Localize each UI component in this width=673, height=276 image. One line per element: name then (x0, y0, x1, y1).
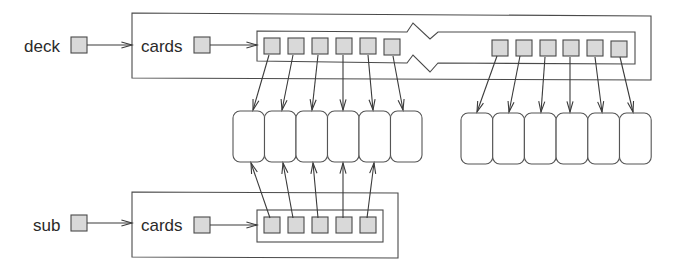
array-element-cell (492, 40, 508, 56)
variables-layer: decksub (24, 37, 132, 235)
field-pointer-cell (194, 217, 210, 233)
card-object (296, 111, 328, 162)
array-element-cell (264, 38, 280, 54)
array-element-cell (587, 40, 603, 56)
array-element-cell (288, 217, 304, 233)
array-element-cell (264, 217, 280, 233)
array-element-cell (540, 40, 556, 56)
field-pointer-cell (194, 37, 210, 53)
variable-sub: sub (33, 215, 132, 235)
card-object (588, 113, 620, 164)
reference-arrow (253, 55, 269, 110)
array-element-cell (336, 38, 352, 54)
card-object (556, 113, 588, 164)
card-object (524, 113, 556, 164)
array-element-cell (312, 38, 328, 54)
card-object (328, 111, 360, 162)
array-element-cell (336, 217, 352, 233)
card-object (391, 111, 423, 162)
field-label-cards: cards (141, 216, 183, 235)
array-element-cell (360, 38, 376, 54)
card-object (493, 113, 525, 164)
variable-pointer-cell (71, 215, 87, 231)
array-element-cell (516, 40, 532, 56)
reference-arrow (509, 56, 520, 112)
cards-right (461, 113, 651, 164)
array-element-cell (312, 217, 328, 233)
cards-left (233, 111, 422, 162)
reference-arrow (620, 57, 633, 112)
array-element-cell (563, 40, 579, 56)
deck-object: cards (132, 13, 651, 80)
card-object (265, 111, 297, 162)
reference-arrow (368, 55, 373, 110)
diagram-svg: cardscards decksub (0, 0, 673, 276)
card-object (620, 113, 652, 164)
reference-arrow (477, 56, 497, 112)
array-element-cell (611, 41, 627, 57)
array-element-cell (384, 39, 400, 55)
card-object (461, 113, 493, 164)
cards-layer (233, 111, 651, 164)
variable-pointer-cell (71, 37, 87, 53)
object-diagram: cardscards decksub (0, 0, 673, 276)
variable-label: sub (33, 216, 60, 235)
card-object (359, 111, 391, 162)
reference-arrow (393, 56, 403, 110)
field-label-cards: cards (141, 37, 183, 56)
variable-label: deck (24, 37, 60, 56)
reference-arrow (282, 55, 293, 110)
array-element-cell (360, 217, 376, 233)
array-element-cell (288, 38, 304, 54)
variable-deck: deck (24, 37, 132, 56)
card-object (233, 111, 265, 162)
